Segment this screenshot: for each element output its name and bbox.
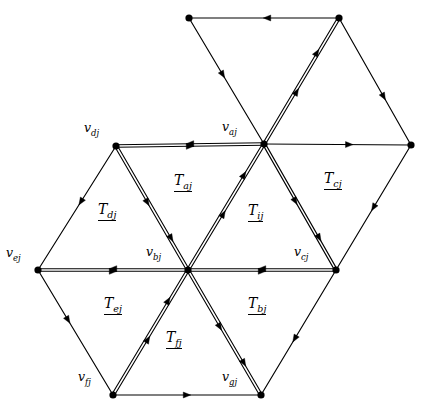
edge-arrowhead xyxy=(263,15,271,21)
mesh-vertex-dot xyxy=(335,14,342,21)
mesh-edge xyxy=(188,266,336,275)
edge-arrowhead xyxy=(291,197,297,205)
edge-arrowhead xyxy=(345,142,353,148)
mesh-edge xyxy=(38,270,113,395)
mesh-vertex-dot xyxy=(332,266,339,273)
mesh-edge xyxy=(261,270,336,395)
edge-arrowhead xyxy=(239,172,245,180)
mesh-edge xyxy=(189,15,339,21)
triangulated-mesh-figure: vdjvajvejvbjvcjvfjvgjTajTcjTdjTijTejTbjT… xyxy=(0,0,430,414)
mesh-vertex-dot xyxy=(184,266,191,273)
mesh-edge xyxy=(113,392,261,398)
mesh-vertex-dot xyxy=(112,142,119,149)
mesh-edge xyxy=(336,145,411,270)
edge-arrowhead xyxy=(63,315,69,323)
edge-arrowhead xyxy=(379,92,385,100)
edge-arrowhead xyxy=(293,334,299,342)
mesh-vertex-dot xyxy=(260,140,267,147)
vertex-label-v-cj: vcj xyxy=(294,244,308,262)
edge-arrowhead xyxy=(372,203,378,211)
edge-arrowhead xyxy=(215,322,221,330)
vertex-label-v-dj: vdj xyxy=(84,120,99,138)
edge-arrowhead xyxy=(164,297,170,305)
mesh-vertex-dot xyxy=(109,391,116,398)
mesh-edge xyxy=(264,142,411,148)
mesh-diagram-canvas xyxy=(0,0,430,414)
mesh-edge xyxy=(263,17,340,144)
vertex-label-v-bj: vbj xyxy=(146,244,161,262)
edge-arrowhead xyxy=(143,198,149,206)
triangle-label-T-dj: Tdj xyxy=(98,202,116,221)
triangle-label-T-bj: Tbj xyxy=(248,296,266,315)
edge-arrowhead xyxy=(312,49,318,57)
triangle-label-T-cj: Tcj xyxy=(324,171,342,190)
mesh-vertex-dot xyxy=(257,391,264,398)
edge-arrowhead xyxy=(79,197,86,205)
mesh-edge xyxy=(116,141,264,150)
triangle-label-T-ij: Tij xyxy=(248,203,263,222)
mesh-vertex-dot xyxy=(34,266,41,273)
mesh-edge xyxy=(38,266,188,275)
mesh-edge xyxy=(339,18,411,145)
mesh-vertex-dot xyxy=(407,141,414,148)
edge-arrowhead xyxy=(218,70,224,78)
triangle-label-T-fj: Tfj xyxy=(166,330,182,349)
vertex-label-v-aj: vaj xyxy=(222,119,237,137)
triangle-label-T-aj: Taj xyxy=(174,173,192,192)
vertex-label-v-ej: vej xyxy=(6,245,21,263)
triangle-label-T-ej: Tej xyxy=(104,296,122,315)
vertex-label-v-fj: vfj xyxy=(78,369,91,387)
vertex-label-v-gj: vgj xyxy=(222,369,237,387)
mesh-vertex-dot xyxy=(185,14,192,21)
edge-arrowhead xyxy=(183,392,191,398)
